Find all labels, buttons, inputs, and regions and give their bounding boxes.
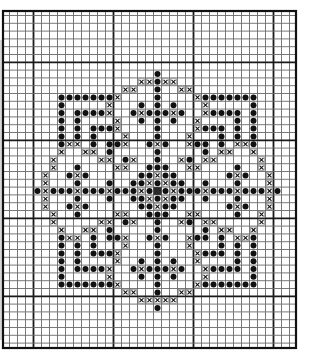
stitch-dot-icon <box>171 258 177 264</box>
stitch-dot-icon <box>75 165 81 171</box>
stitch-dot-icon <box>251 110 257 116</box>
stitch-cross-icon <box>147 180 153 186</box>
stitch-dot-icon <box>163 204 169 210</box>
stitch-dot-icon <box>147 165 153 171</box>
stitch-cross-icon <box>155 204 161 210</box>
stitch-dot-icon <box>59 118 65 124</box>
stitch-dot-icon <box>35 188 41 194</box>
stitch-cross-icon <box>155 172 161 178</box>
stitch-dot-icon <box>227 94 233 100</box>
stitch-cross-icon <box>203 110 209 116</box>
stitch-cross-icon <box>171 266 177 272</box>
stitch-cross-icon <box>115 118 121 124</box>
stitch-dot-icon <box>251 141 257 147</box>
stitch-dot-icon <box>59 188 65 194</box>
stitch-dot-icon <box>99 266 105 272</box>
stitch-dot-icon <box>99 94 105 100</box>
stitch-dot-icon <box>139 102 145 108</box>
stitch-cross-icon <box>195 126 201 132</box>
stitch-dot-icon <box>235 266 241 272</box>
stitch-dot-icon <box>83 94 89 100</box>
stitch-dot-icon <box>155 79 161 85</box>
stitch-dot-icon <box>155 102 161 108</box>
stitch-dot-icon <box>219 94 225 100</box>
stitch-cross-icon <box>171 110 177 116</box>
stitch-dot-icon <box>219 282 225 288</box>
stitch-dot-icon <box>171 204 177 210</box>
stitch-cross-icon <box>115 258 121 264</box>
stitch-dot-icon <box>75 196 81 202</box>
stitch-cross-icon <box>123 289 129 295</box>
stitch-dot-icon <box>235 118 241 124</box>
stitch-cross-icon <box>219 149 225 155</box>
stitch-dot-icon <box>251 250 257 256</box>
stitch-dot-icon <box>147 266 153 272</box>
stitch-dot-icon <box>203 180 209 186</box>
stitch-dot-icon <box>147 204 153 210</box>
stitch-cross-icon <box>123 235 129 241</box>
stitch-dot-icon <box>227 172 233 178</box>
stitch-cross-icon <box>43 180 49 186</box>
stitch-dot-icon <box>163 188 169 194</box>
stitch-cross-icon <box>251 149 257 155</box>
stitch-dot-icon <box>59 141 65 147</box>
stitch-cross-icon <box>187 235 193 241</box>
stitch-dot-icon <box>75 250 81 256</box>
stitch-dot-icon <box>99 282 105 288</box>
stitch-dot-icon <box>155 258 161 264</box>
stitch-dot-icon <box>155 305 161 311</box>
stitch-dot-icon <box>147 211 153 217</box>
stitch-cross-icon <box>115 165 121 171</box>
stitch-cross-icon <box>235 204 241 210</box>
stitch-cross-icon <box>43 172 49 178</box>
stitch-dot-icon <box>59 133 65 139</box>
stitch-cross-icon <box>235 172 241 178</box>
stitch-cross-icon <box>123 87 129 93</box>
stitch-cross-icon <box>235 235 241 241</box>
stitch-cross-icon <box>203 102 209 108</box>
stitch-dot-icon <box>75 243 81 249</box>
stitch-dot-icon <box>235 211 241 217</box>
stitch-cross-icon <box>243 235 249 241</box>
stitch-dot-icon <box>67 172 73 178</box>
stitch-dot-icon <box>139 204 145 210</box>
stitch-dot-icon <box>243 172 249 178</box>
stitch-dot-icon <box>251 266 257 272</box>
stitch-dot-icon <box>107 235 113 241</box>
stitch-dot-icon <box>131 180 137 186</box>
stitch-cross-icon <box>195 258 201 264</box>
stitch-dot-icon <box>243 188 249 194</box>
stitch-dot-icon <box>83 266 89 272</box>
stitch-dot-icon <box>75 126 81 132</box>
stitch-dot-icon <box>251 133 257 139</box>
stitch-dot-icon <box>195 141 201 147</box>
stitch-cross-icon <box>227 227 233 233</box>
stitch-cross-icon <box>115 211 121 217</box>
stitch-dot-icon <box>123 188 129 194</box>
stitch-cross-icon <box>179 219 185 225</box>
stitch-cross-icon <box>131 87 137 93</box>
stitch-dot-icon <box>91 188 97 194</box>
stitch-dot-icon <box>59 126 65 132</box>
stitch-dot-icon <box>131 110 137 116</box>
stitch-dot-icon <box>211 282 217 288</box>
stitch-dot-icon <box>123 219 129 225</box>
stitch-dot-icon <box>107 126 113 132</box>
stitch-dot-icon <box>227 266 233 272</box>
stitch-dot-icon <box>155 250 161 256</box>
stitch-dot-icon <box>251 258 257 264</box>
stitch-cross-icon <box>259 165 265 171</box>
stitch-cross-icon <box>147 79 153 85</box>
stitch-cross-icon <box>195 282 201 288</box>
stitch-dot-icon <box>235 180 241 186</box>
stitch-dot-icon <box>155 165 161 171</box>
stitch-dot-icon <box>179 180 185 186</box>
stitch-cross-icon <box>219 227 225 233</box>
stitch-cross-icon <box>75 204 81 210</box>
stitch-dot-icon <box>195 235 201 241</box>
stitch-dot-icon <box>235 196 241 202</box>
stitch-dot-icon <box>163 266 169 272</box>
stitch-dot-icon <box>219 243 225 249</box>
stitch-cross-icon <box>259 157 265 163</box>
stitch-dot-icon <box>155 289 161 295</box>
